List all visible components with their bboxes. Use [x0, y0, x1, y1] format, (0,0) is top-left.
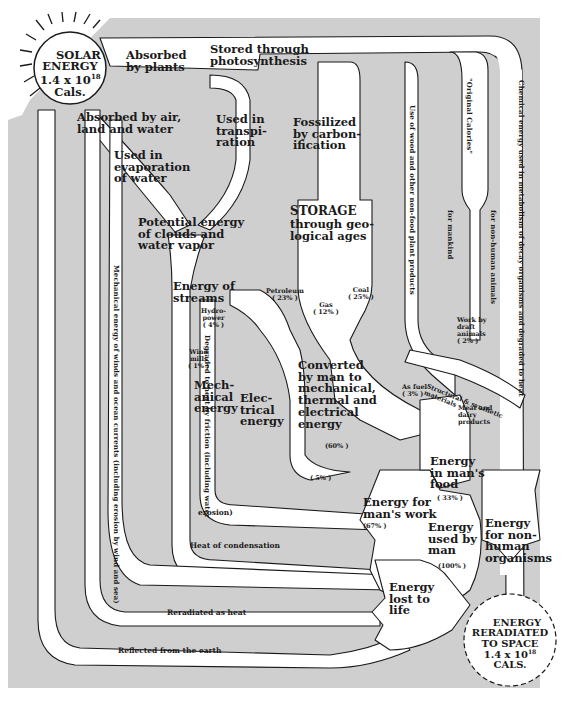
converted-percentage: (60% )	[325, 443, 349, 450]
energy-in-mans-food-label: Energy in man's food	[430, 456, 485, 491]
used-percentage: (100% )	[438, 563, 466, 570]
use-of-wood-label: Use of wood and other non-food plant pro…	[408, 105, 417, 305]
storage-subtitle: through geo- logical ages	[290, 219, 374, 242]
five-percent-label: ( 5% )	[310, 475, 331, 482]
coal-label: Coal ( 25% )	[348, 287, 374, 301]
for-non-human-animals-label: for non-human animals	[489, 210, 498, 310]
evaporation-label: Used in evaporation of water	[114, 150, 190, 185]
stored-photosynthesis-label: Stored through photosynthesis	[210, 44, 309, 67]
petroleum-label: Petroleum ( 23% )	[266, 288, 304, 302]
draft-animals-label: Work by draft animals ( 2% )	[457, 317, 487, 346]
electrical-energy-label: Elec- trical energy	[240, 393, 284, 428]
solar-energy-label: SOLAR ENERGY 1.4 x 1018Cals.	[40, 38, 100, 110]
energy-used-by-man-label: Energy used by man	[428, 522, 477, 557]
transpiration-label: Used in transpi- ration	[216, 114, 267, 149]
food-percentage: ( 33% )	[437, 495, 463, 502]
original-calories-label: "Original Calories"	[465, 78, 474, 158]
mechanical-winds-label: Mechanical energy of winds and ocean cur…	[112, 265, 121, 585]
energy-for-mans-work-label: Energy for man's work	[363, 497, 437, 520]
fossilized-label: Fossilized by carbon- ification	[293, 117, 361, 152]
energy-lost-to-life-label: Energy lost to life	[389, 582, 434, 617]
storage-title: STORAGE	[290, 205, 357, 217]
mechanical-energy-label: Mech- anical energy	[194, 380, 238, 415]
absorbed-by-plants-label: Absorbed by plants	[126, 50, 187, 73]
reflected-from-earth-label: Reflected from the earth	[118, 647, 221, 655]
potential-energy-clouds-label: Potential energy of clouds and water vap…	[138, 217, 244, 252]
converted-by-man-label: Converted by man to mechanical, thermal …	[298, 360, 377, 430]
gas-label: Gas ( 12% )	[313, 302, 339, 316]
energy-non-human-label: Energy for non- human organisms	[485, 518, 552, 565]
absorbed-air-land-water-label: Absorbed by air, land and water	[77, 112, 181, 135]
meat-dairy-label: Meat and dairy products	[458, 405, 492, 426]
reradiated-as-heat-label: Reradiated as heat	[167, 609, 246, 617]
energy-of-streams-label: Energy of streams	[173, 281, 235, 304]
chemical-energy-decay-label: Chemical energy used in metabolism of de…	[517, 80, 526, 400]
as-fuel-label: As fuel ( 3% )	[402, 384, 427, 398]
hydropower-label: Hydro- power ( 4% )	[201, 308, 226, 329]
degraded-friction-label: Degraded to heat by friction (including …	[203, 335, 212, 505]
work-percentage: (67% )	[363, 523, 387, 530]
for-mankind-label: for mankind	[446, 210, 455, 270]
reradiated-space-label: ENERGY RERADIATED TO SPACE 1.4 x 1018CAL…	[462, 608, 558, 681]
heat-of-condensation-label: Heat of condensation	[190, 542, 280, 550]
energy-flow-diagram: SOLAR ENERGY 1.4 x 1018Cals. ENERGY RERA…	[0, 0, 571, 707]
